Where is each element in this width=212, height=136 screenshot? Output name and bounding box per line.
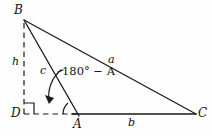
exterior-angle-arrowhead-icon <box>45 95 54 104</box>
side-label-h: h <box>12 56 19 67</box>
vertex-label-B: B <box>14 4 23 16</box>
interior-angle-arc-icon <box>63 103 68 114</box>
vertex-label-D: D <box>11 107 21 119</box>
side-label-c: c <box>40 65 46 76</box>
angle-label-exterior: 180° − A <box>62 66 115 78</box>
vertex-label-A: A <box>73 118 82 130</box>
side-label-b: b <box>128 117 135 128</box>
vertex-label-C: C <box>198 107 207 119</box>
right-angle-marker-icon <box>24 103 34 114</box>
geometry-figure: B A C D a b c h 180° − A <box>0 0 212 136</box>
